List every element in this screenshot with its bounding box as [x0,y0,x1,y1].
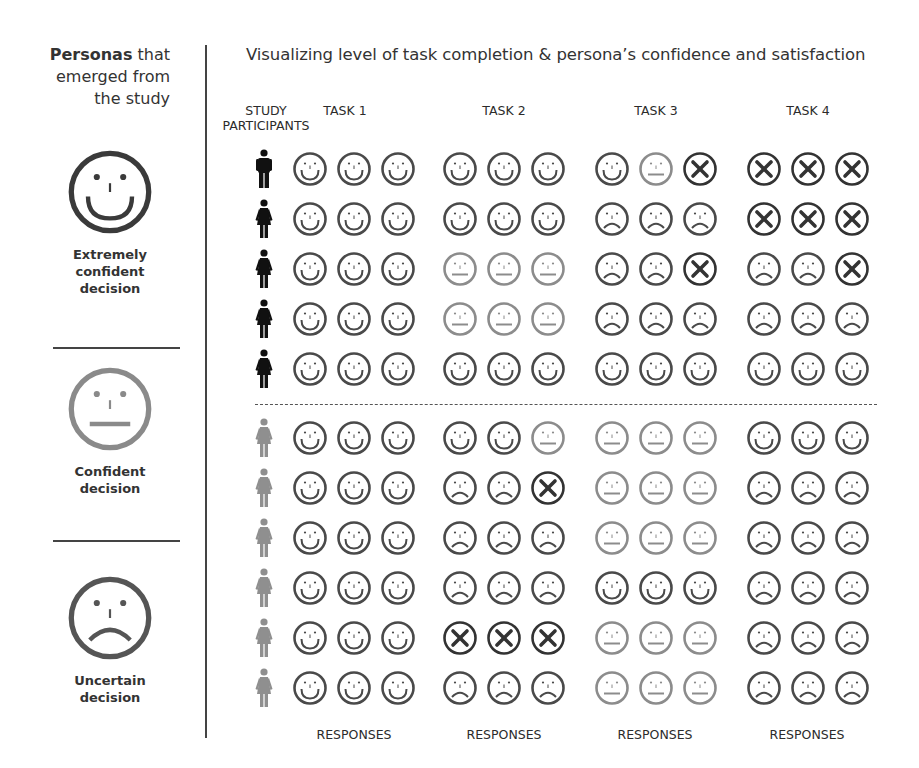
task-footer-2: RESPONSES [454,727,554,742]
sad-face-icon [442,670,478,706]
happy-face-icon [292,470,328,506]
neutral-face-icon [682,670,718,706]
participant-icon-light [253,568,275,608]
sad-face-icon [746,570,782,606]
sad-face-icon [746,251,782,287]
happy-face-icon [336,420,372,456]
persona-divider-dashed [255,404,877,405]
happy-face-icon [486,351,522,387]
sad-face-icon [66,574,154,662]
sad-face-icon [790,301,826,337]
fail-cross-icon [682,151,718,187]
legend-label-line: Uncertain [40,672,180,689]
legend-uncertain: Uncertain decision [40,574,180,706]
sad-face-icon [486,470,522,506]
sad-face-icon [638,301,674,337]
neutral-face-icon [638,470,674,506]
legend-label-line: confident [40,263,180,280]
legend-extremely-confident: Extremely confident decision [40,148,180,297]
happy-face-icon [336,351,372,387]
sad-face-icon [834,670,870,706]
happy-face-icon [292,620,328,656]
happy-face-icon [292,670,328,706]
happy-face-icon [292,201,328,237]
happy-face-icon [336,301,372,337]
neutral-face-icon [638,420,674,456]
happy-face-icon [336,620,372,656]
sad-face-icon [442,470,478,506]
fail-cross-icon [746,151,782,187]
happy-face-icon [486,151,522,187]
happy-face-icon [834,420,870,456]
happy-face-icon [336,570,372,606]
happy-face-icon [292,570,328,606]
sad-face-icon [594,251,630,287]
sad-face-icon [834,570,870,606]
happy-face-icon [380,201,416,237]
happy-face-icon [790,420,826,456]
sad-face-icon [638,251,674,287]
neutral-face-icon [66,365,154,453]
happy-face-icon [292,251,328,287]
participant-icon-light [253,518,275,558]
happy-face-icon [336,470,372,506]
happy-face-icon [380,570,416,606]
sad-face-icon [682,301,718,337]
neutral-face-icon [638,670,674,706]
sad-face-icon [790,570,826,606]
sad-face-icon [594,201,630,237]
participant-icon-dark [253,199,275,239]
neutral-face-icon [594,520,630,556]
fail-cross-icon [790,151,826,187]
participants-header-line: PARTICIPANTS [216,118,316,133]
neutral-face-icon [682,470,718,506]
sad-face-icon [834,520,870,556]
neutral-face-icon [486,251,522,287]
sad-face-icon [746,620,782,656]
sad-face-icon [834,301,870,337]
happy-face-icon [66,148,154,236]
happy-face-icon [682,351,718,387]
happy-face-icon [486,420,522,456]
happy-face-icon [292,420,328,456]
task-footer-4: RESPONSES [757,727,857,742]
personas-title-bold: Personas [50,45,133,64]
legend-confident: Confident decision [40,365,180,497]
happy-face-icon [530,351,566,387]
happy-face-icon [380,251,416,287]
neutral-face-icon [594,620,630,656]
happy-face-icon [746,420,782,456]
happy-face-icon [442,201,478,237]
legend-label-line: decision [40,280,180,297]
happy-face-icon [638,351,674,387]
legend-label-line: Extremely [40,246,180,263]
happy-face-icon [442,151,478,187]
happy-face-icon [442,351,478,387]
happy-face-icon [292,351,328,387]
sad-face-icon [638,201,674,237]
fail-cross-icon [442,620,478,656]
sad-face-icon [682,201,718,237]
happy-face-icon [594,151,630,187]
sad-face-icon [746,301,782,337]
legend-separator [53,347,180,349]
neutral-face-icon [442,251,478,287]
happy-face-icon [594,351,630,387]
happy-face-icon [336,670,372,706]
happy-face-icon [336,251,372,287]
happy-face-icon [638,570,674,606]
happy-face-icon [380,301,416,337]
sad-face-icon [746,470,782,506]
neutral-face-icon [594,670,630,706]
participant-icon-dark [253,249,275,289]
participant-icon-dark [253,149,275,189]
legend-separator [53,540,180,542]
neutral-face-icon [682,520,718,556]
neutral-face-icon [442,301,478,337]
sad-face-icon [790,620,826,656]
participants-header: STUDY PARTICIPANTS [216,103,316,133]
task-header-1: TASK 1 [310,103,380,118]
neutral-face-icon [682,620,718,656]
fail-cross-icon [790,201,826,237]
happy-face-icon [336,151,372,187]
